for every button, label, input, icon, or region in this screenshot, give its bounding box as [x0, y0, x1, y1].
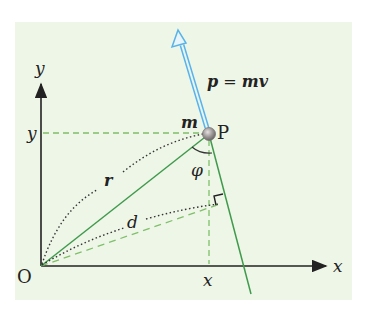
- momentum-line-extension: [209, 134, 251, 294]
- r-dotted-arc-lower: [42, 190, 97, 264]
- angular-momentum-diagram: y x O y x P m r d φ p = mv: [0, 0, 377, 309]
- particle-ball: [203, 128, 216, 141]
- momentum-equation: p = mv: [207, 72, 269, 91]
- y-axis-label: y: [34, 58, 45, 78]
- right-angle-mark: [214, 194, 223, 205]
- r-label: r: [104, 171, 114, 190]
- mass-label: m: [181, 113, 198, 132]
- point-label: P: [217, 122, 229, 143]
- y-coord-label: y: [26, 123, 37, 143]
- x-coord-label: x: [203, 270, 213, 290]
- x-axis-label: x: [333, 256, 343, 276]
- phi-label: φ: [191, 160, 203, 180]
- origin-label: O: [17, 266, 32, 287]
- d-label: d: [127, 212, 138, 232]
- r-line: [41, 134, 209, 266]
